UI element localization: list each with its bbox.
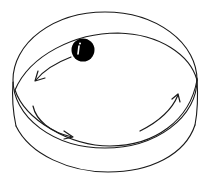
track-diagram — [0, 0, 211, 184]
motion-arrow — [35, 57, 71, 81]
ball — [72, 39, 95, 62]
ball-highlight — [78, 46, 79, 54]
inner-rim-back — [15, 33, 197, 90]
arrow-shaft — [36, 57, 71, 80]
inner-rim-front — [15, 80, 197, 146]
ball-highlight-dot — [79, 43, 81, 45]
motion-arrow — [33, 106, 73, 139]
cylinder-track — [13, 12, 198, 172]
motion-arrows — [33, 57, 180, 139]
outer-rim — [13, 12, 197, 148]
arrowhead-icon — [172, 94, 180, 102]
arrow-shaft — [140, 95, 178, 131]
ball-body — [72, 39, 95, 62]
